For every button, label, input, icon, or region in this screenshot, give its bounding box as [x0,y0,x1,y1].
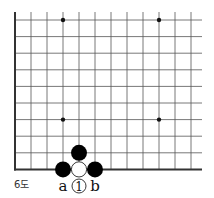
hoshi-point [157,117,161,121]
black-stone [87,161,103,177]
white-stone [71,162,86,177]
black-stone [71,145,87,161]
go-board: 1ab [0,0,214,198]
diagram-caption: 6도 [14,176,28,191]
move-number: 1 [75,180,83,194]
hoshi-point [157,18,161,22]
point-label-b: b [90,177,100,195]
black-stone [55,161,71,177]
hoshi-point [61,117,65,121]
point-label-a: a [59,177,68,195]
hoshi-point [61,18,65,22]
